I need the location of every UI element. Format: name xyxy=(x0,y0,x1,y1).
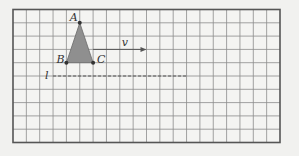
point-a-dot xyxy=(78,21,82,25)
line-label-l: l xyxy=(45,69,49,82)
point-c-dot xyxy=(91,61,95,65)
diagram-canvas: l v A B C xyxy=(0,0,299,156)
point-a-label: A xyxy=(69,11,78,24)
point-b-label: B xyxy=(55,53,64,66)
point-b-dot xyxy=(64,61,68,65)
translation-diagram: l v A B C xyxy=(0,0,299,156)
point-c-label: C xyxy=(97,53,106,66)
vector-label-v: v xyxy=(122,36,129,49)
